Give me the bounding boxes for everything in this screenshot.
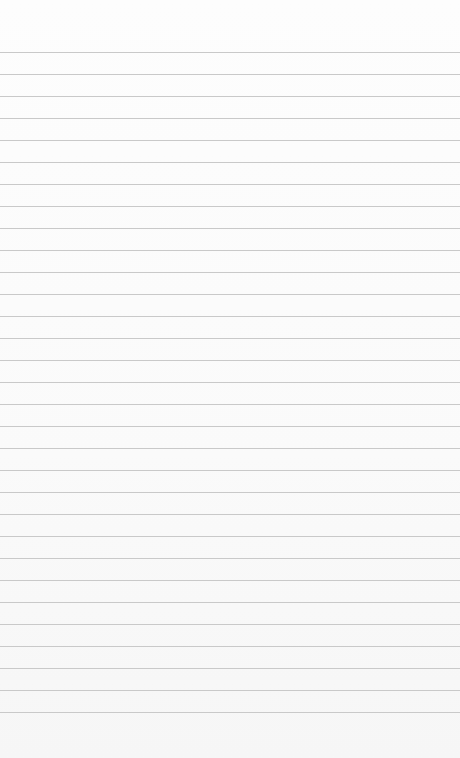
ruled-line	[0, 536, 460, 537]
ruled-line	[0, 140, 460, 141]
ruled-line	[0, 668, 460, 669]
ruled-line	[0, 206, 460, 207]
ruled-line	[0, 690, 460, 691]
ruled-line	[0, 74, 460, 75]
ruled-line	[0, 360, 460, 361]
lined-paper-sheet	[0, 0, 460, 758]
ruled-line	[0, 52, 460, 53]
ruled-line	[0, 228, 460, 229]
ruled-line	[0, 448, 460, 449]
ruled-line	[0, 624, 460, 625]
ruled-line	[0, 338, 460, 339]
ruled-line	[0, 602, 460, 603]
ruled-line	[0, 250, 460, 251]
ruled-line	[0, 492, 460, 493]
ruled-line	[0, 712, 460, 713]
ruled-line	[0, 580, 460, 581]
ruled-line	[0, 558, 460, 559]
ruled-line	[0, 96, 460, 97]
ruled-line	[0, 470, 460, 471]
ruled-line	[0, 294, 460, 295]
ruled-line	[0, 118, 460, 119]
ruled-line	[0, 514, 460, 515]
ruled-line	[0, 272, 460, 273]
ruled-line	[0, 404, 460, 405]
ruled-line	[0, 316, 460, 317]
ruled-line	[0, 426, 460, 427]
ruled-line	[0, 162, 460, 163]
ruled-line	[0, 382, 460, 383]
ruled-line	[0, 646, 460, 647]
ruled-line	[0, 184, 460, 185]
